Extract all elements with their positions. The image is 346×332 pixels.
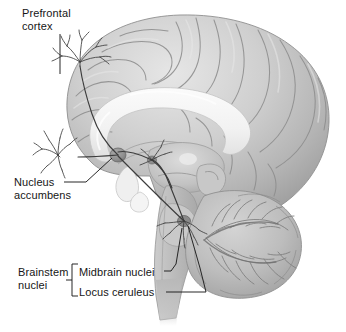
label-midbrain-nuclei: Midbrain nuclei bbox=[79, 266, 154, 279]
label-prefrontal-cortex: Prefrontal cortex bbox=[22, 7, 71, 33]
label-locus-ceruleus: Locus ceruleus bbox=[79, 286, 154, 299]
brainstem-bracket bbox=[72, 264, 78, 296]
cerebellum bbox=[186, 191, 302, 299]
label-brainstem-nuclei: Brainstem nuclei bbox=[18, 266, 68, 292]
label-nucleus-accumbens: Nucleus accumbens bbox=[14, 176, 71, 202]
brain-anatomy-figure: Prefrontal cortex Nucleus accumbens Brai… bbox=[0, 0, 346, 332]
